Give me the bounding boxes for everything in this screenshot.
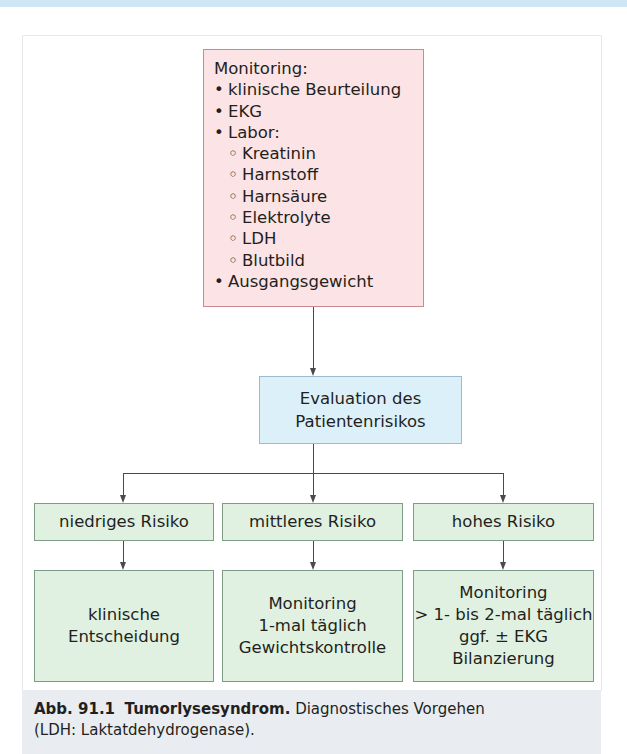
risk-box-medium: mittleres Risiko	[222, 503, 403, 541]
monitoring-item: •Ausgangsgewicht	[214, 271, 413, 292]
circle-bullet-icon: ◦	[228, 186, 242, 207]
monitoring-subitem: ◦Kreatinin	[214, 143, 413, 164]
arrow-down-icon	[310, 368, 316, 376]
caption-text: Diagnostisches Vorgehen	[295, 700, 485, 718]
connector-line	[503, 473, 504, 495]
arrow-down-icon	[500, 495, 506, 503]
circle-bullet-icon: ◦	[228, 164, 242, 185]
circle-bullet-icon: ◦	[228, 143, 242, 164]
bullet-icon: •	[214, 271, 228, 292]
connector-line	[313, 444, 314, 495]
circle-bullet-icon: ◦	[228, 250, 242, 271]
result-line: Entscheidung	[68, 626, 180, 648]
monitoring-item: •Labor:	[214, 122, 413, 143]
caption-label: Abb. 91.1	[34, 700, 115, 718]
evaluation-line1: Evaluation des	[295, 387, 425, 410]
result-line: Gewichtskontrolle	[239, 637, 386, 659]
monitoring-box: Monitoring: •klinische Beurteilung •EKG …	[203, 49, 424, 307]
evaluation-line2: Patientenrisikos	[295, 410, 425, 433]
risk-box-high: hohes Risiko	[413, 503, 594, 541]
result-line: 1-mal täglich	[239, 615, 386, 637]
monitoring-subitem: ◦Blutbild	[214, 250, 413, 271]
caption-text2: (LDH: Laktatdehydrogenase).	[34, 720, 589, 741]
risk-box-low: niedriges Risiko	[34, 503, 214, 541]
figure-caption: Abb. 91.1 Tumorlysesyndrom. Diagnostisch…	[22, 690, 601, 754]
monitoring-item: •EKG	[214, 101, 413, 122]
circle-bullet-icon: ◦	[228, 207, 242, 228]
result-line: Monitoring	[415, 582, 593, 604]
arrow-down-icon	[120, 562, 126, 570]
bullet-icon: •	[214, 79, 228, 100]
monitoring-subitem: ◦Harnsäure	[214, 186, 413, 207]
connector-line	[503, 541, 504, 562]
result-box-medium: Monitoring 1-mal täglich Gewichtskontrol…	[222, 570, 403, 682]
result-line: Bilanzierung	[415, 648, 593, 670]
connector-line	[123, 473, 124, 495]
arrow-down-icon	[500, 562, 506, 570]
result-box-low: klinische Entscheidung	[34, 570, 214, 682]
bullet-icon: •	[214, 122, 228, 143]
monitoring-subitem: ◦LDH	[214, 228, 413, 249]
result-line: Monitoring	[239, 593, 386, 615]
arrow-down-icon	[310, 495, 316, 503]
evaluation-box: Evaluation des Patientenrisikos	[259, 376, 462, 444]
branch-line	[123, 473, 504, 474]
connector-line	[313, 307, 314, 368]
connector-line	[313, 541, 314, 562]
monitoring-item: •klinische Beurteilung	[214, 79, 413, 100]
bullet-icon: •	[214, 101, 228, 122]
result-line: ggf. ± EKG	[415, 626, 593, 648]
monitoring-title: Monitoring:	[214, 58, 413, 79]
connector-line	[123, 541, 124, 562]
circle-bullet-icon: ◦	[228, 228, 242, 249]
result-box-high: Monitoring > 1- bis 2-mal täglich ggf. ±…	[413, 570, 594, 682]
arrow-down-icon	[310, 562, 316, 570]
top-strip	[0, 0, 627, 7]
caption-title: Tumorlysesyndrom.	[125, 700, 291, 718]
monitoring-subitem: ◦Elektrolyte	[214, 207, 413, 228]
result-line: klinische	[68, 604, 180, 626]
monitoring-subitem: ◦Harnstoff	[214, 164, 413, 185]
result-line: > 1- bis 2-mal täglich	[415, 604, 593, 626]
arrow-down-icon	[120, 495, 126, 503]
